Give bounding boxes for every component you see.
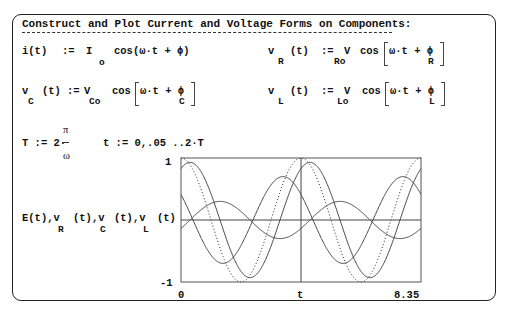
plot-area[interactable]: [0, 0, 513, 319]
